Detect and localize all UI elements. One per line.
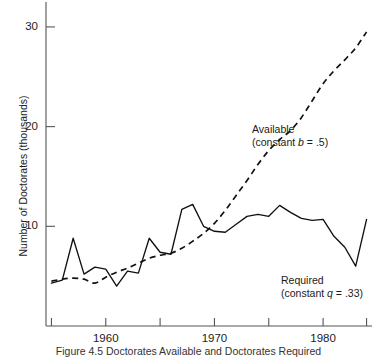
available-label-line1: Available bbox=[252, 123, 328, 136]
series-line-available bbox=[51, 32, 366, 283]
y-tick-marks bbox=[46, 27, 55, 226]
x-tick-label: 1980 bbox=[303, 332, 343, 344]
x-tick-label: 1960 bbox=[86, 332, 126, 344]
required-label: Required (constant q = .33) bbox=[281, 274, 363, 299]
required-label-line2: (constant q = .33) bbox=[281, 287, 363, 300]
x-tick-marks bbox=[51, 318, 366, 326]
y-tick-label: 30 bbox=[12, 20, 38, 32]
available-label: Available (constant b = .5) bbox=[252, 123, 328, 148]
y-tick-label: 20 bbox=[12, 120, 38, 132]
x-tick-label: 1970 bbox=[194, 332, 234, 344]
available-label-line2: (constant b = .5) bbox=[252, 136, 328, 149]
y-tick-label: 10 bbox=[12, 219, 38, 231]
required-label-line1: Required bbox=[281, 274, 363, 287]
figure-caption: Figure 4.5 Doctorates Available and Doct… bbox=[0, 345, 377, 357]
